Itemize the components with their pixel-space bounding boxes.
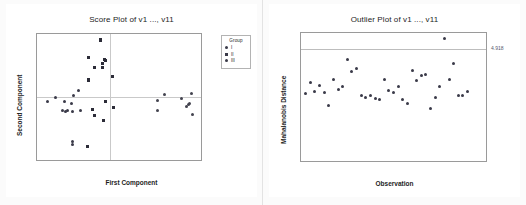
- data-point: [461, 94, 464, 97]
- data-point: [71, 110, 74, 113]
- data-point: [99, 39, 102, 42]
- data-point: [313, 90, 316, 93]
- score-plot-xaxis-title: First Component: [6, 179, 257, 186]
- data-point: [101, 62, 104, 65]
- data-point: [79, 109, 82, 112]
- legend-item-1[interactable]: I: [225, 45, 247, 50]
- data-point: [156, 99, 159, 102]
- data-point: [411, 69, 414, 72]
- data-point: [323, 91, 326, 94]
- data-point: [318, 84, 321, 87]
- data-point: [63, 100, 66, 103]
- data-point: [424, 73, 427, 76]
- data-point: [457, 94, 460, 97]
- data-point: [401, 98, 404, 101]
- data-point: [341, 85, 344, 88]
- data-point: [438, 85, 441, 88]
- data-point: [190, 92, 193, 95]
- data-point: [327, 104, 330, 107]
- data-point: [346, 58, 349, 61]
- outlier-plot-canvas: Outlier Plot of v1 ..., v11 010203040012…: [269, 4, 520, 197]
- data-point: [101, 66, 104, 69]
- legend-marker-circle-icon: [225, 46, 228, 49]
- data-point: [163, 93, 166, 96]
- score-plot-canvas: Score Plot of v1 ..., v11 -4-3-2-1012345…: [6, 4, 257, 197]
- data-point: [87, 56, 90, 59]
- data-point: [102, 119, 105, 122]
- data-point: [387, 89, 390, 92]
- data-point: [369, 94, 372, 97]
- data-point: [383, 78, 386, 81]
- data-point: [448, 78, 451, 81]
- outlier-plot-title: Outlier Plot of v1 ..., v11: [269, 15, 520, 24]
- data-point: [156, 109, 159, 112]
- legend-label: III: [231, 58, 235, 63]
- data-point: [77, 89, 80, 92]
- data-point: [309, 81, 312, 84]
- data-point: [70, 102, 73, 105]
- data-point: [434, 96, 437, 99]
- outlier-reference-line: [301, 49, 486, 50]
- data-point: [112, 106, 115, 109]
- data-point: [397, 85, 400, 88]
- legend-label: I: [231, 45, 232, 50]
- data-point: [355, 67, 358, 70]
- score-plot-panel: Score Plot of v1 ..., v11 -4-3-2-1012345…: [0, 0, 263, 205]
- zero-horizontal-line: [37, 97, 201, 98]
- data-point: [111, 75, 114, 78]
- data-point: [93, 114, 96, 117]
- data-point: [191, 113, 194, 116]
- data-point: [364, 96, 367, 99]
- data-point: [91, 108, 94, 111]
- data-point: [350, 70, 353, 73]
- data-point: [71, 143, 74, 146]
- legend-marker-square-icon: [225, 53, 228, 56]
- data-point: [415, 79, 418, 82]
- legend-title: Group: [225, 38, 247, 43]
- data-point: [466, 90, 469, 93]
- data-point: [360, 94, 363, 97]
- data-point: [452, 62, 455, 65]
- score-plot-yaxis-title: Second Component: [16, 75, 23, 136]
- score-plot-area: -4-3-2-1012345-3-2-10123: [37, 34, 201, 160]
- data-point: [180, 97, 183, 100]
- data-point: [378, 98, 381, 101]
- data-point: [46, 100, 49, 103]
- data-point: [337, 88, 340, 91]
- data-point: [87, 78, 90, 81]
- data-point: [443, 37, 446, 40]
- legend-item-2[interactable]: II: [225, 52, 247, 57]
- data-point: [406, 102, 409, 105]
- data-point: [374, 97, 377, 100]
- screenshot-root: Score Plot of v1 ..., v11 -4-3-2-1012345…: [0, 0, 526, 205]
- data-point: [104, 59, 107, 62]
- data-point: [304, 92, 307, 95]
- data-point: [86, 145, 89, 148]
- score-plot-frame: -4-3-2-1012345-3-2-10123: [36, 33, 202, 161]
- data-point: [93, 66, 96, 69]
- legend-item-3[interactable]: III: [225, 58, 247, 63]
- data-point: [54, 96, 57, 99]
- data-point: [332, 78, 335, 81]
- outlier-reference-value: 4.918: [491, 45, 504, 51]
- data-point: [188, 102, 191, 105]
- outlier-plot-panel: Outlier Plot of v1 ..., v11 010203040012…: [263, 0, 526, 205]
- outlier-plot-area: 010203040012345: [301, 33, 486, 161]
- outlier-plot-xaxis-title: Observation: [269, 180, 520, 187]
- legend-marker-circle-icon: [225, 59, 228, 62]
- legend-label: II: [231, 52, 234, 57]
- outlier-plot-frame: 010203040012345: [300, 32, 487, 162]
- data-point: [66, 109, 69, 112]
- data-point: [104, 100, 107, 103]
- group-legend: Group I II III: [221, 35, 251, 69]
- data-point: [429, 107, 432, 110]
- data-point: [420, 74, 423, 77]
- score-plot-title: Score Plot of v1 ..., v11: [6, 15, 257, 24]
- outlier-plot-yaxis-title: Mahalanobis Distance: [280, 76, 287, 144]
- data-point: [392, 91, 395, 94]
